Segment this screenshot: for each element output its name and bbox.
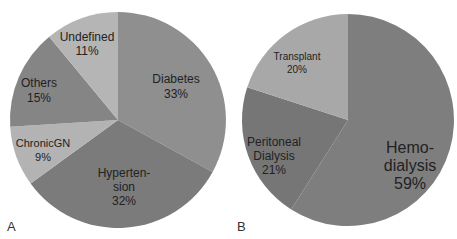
label-transplant-name: Transplant — [274, 51, 321, 62]
label-undefined-pct: 11% — [75, 44, 98, 58]
label-hypertension-name2: sion — [113, 180, 135, 194]
label-peritoneal-name: Peritoneal — [247, 135, 301, 149]
label-hypertension-name: Hyperten- — [98, 166, 151, 180]
panel-label-b: B — [237, 219, 246, 234]
label-others-pct: 15% — [27, 91, 51, 105]
label-hemodialysis-name2: dialysis — [384, 157, 436, 174]
label-undefined-name: Undefined — [60, 30, 115, 44]
label-chronicgn-pct: 9% — [35, 151, 51, 163]
label-transplant-pct: 20% — [287, 64, 307, 75]
label-others-name: Others — [21, 76, 57, 90]
pie-chart-b: Hemo- dialysis 59% Peritoneal Dialysis 2… — [237, 14, 454, 234]
pie-chart-a: Diabetes 33% Hyperten- sion 32% ChronicG… — [7, 12, 226, 234]
label-hemodialysis-name: Hemo- — [386, 139, 434, 156]
label-diabetes-name: Diabetes — [152, 72, 199, 86]
label-chronicgn-name: ChronicGN — [16, 137, 70, 149]
figure: Diabetes 33% Hyperten- sion 32% ChronicG… — [0, 0, 457, 239]
panel-label-a: A — [7, 219, 16, 234]
label-hypertension-pct: 32% — [112, 194, 136, 208]
label-peritoneal-pct: 21% — [262, 163, 286, 177]
label-hemodialysis-pct: 59% — [394, 175, 426, 192]
label-diabetes-pct: 33% — [164, 87, 188, 101]
label-peritoneal-name2: Dialysis — [253, 149, 294, 163]
